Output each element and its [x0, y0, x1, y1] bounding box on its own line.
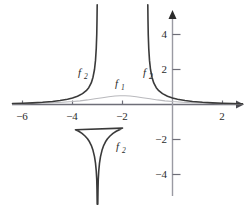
y-tick-label--4: −4 — [155, 168, 167, 180]
function-graph-figure: −6 −4 −2 2 4 2 −2 −4 f 2 f 1 f 2 f 2 — [0, 0, 250, 207]
annotation-f2-bottom-subscript: 2 — [122, 146, 126, 155]
annotation-f2-right-subscript: 2 — [149, 72, 153, 81]
annotation-f1-subscript: 1 — [121, 83, 125, 92]
y-tick-label--2: −2 — [155, 133, 167, 145]
x-tick-label--6: −6 — [16, 110, 28, 122]
x-tick-label-2: 2 — [219, 110, 225, 122]
x-tick-label--4: −4 — [66, 110, 78, 122]
annotation-f2-left-subscript: 2 — [84, 72, 88, 81]
x-tick-label--2: −2 — [116, 110, 128, 122]
y-tick-label-4: 4 — [162, 28, 168, 40]
y-tick-label-2: 2 — [162, 63, 168, 75]
